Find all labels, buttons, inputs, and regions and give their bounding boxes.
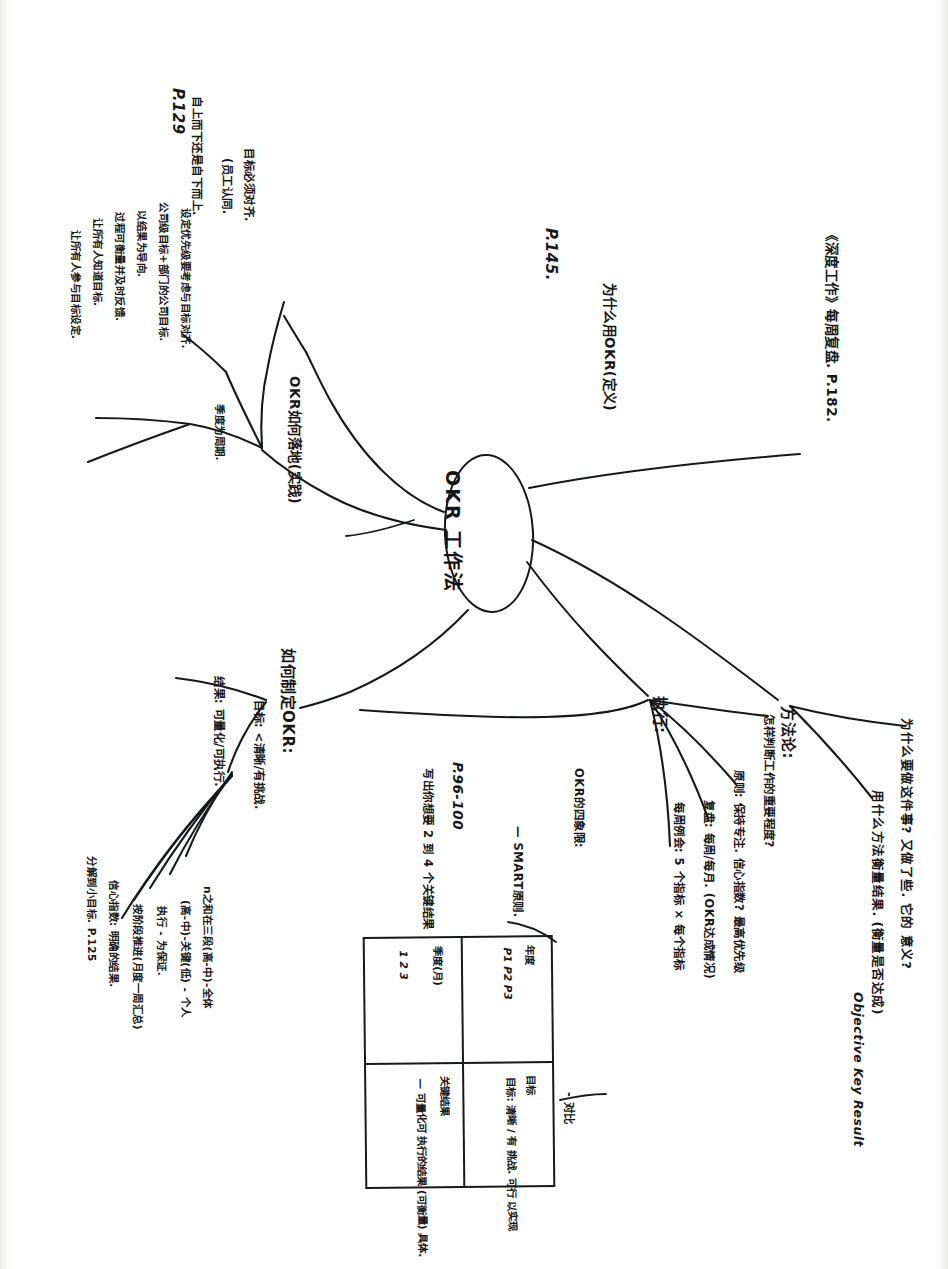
method-child-0: 为什么要做这件事? 又做了些. 它的 意义? bbox=[898, 718, 917, 969]
matrix-caption: - 对比 bbox=[562, 1092, 578, 1125]
execute-child-3: 每周例会: 5 个指标 × 每个指标 bbox=[672, 802, 688, 970]
branch-execute-label: 执行: bbox=[651, 696, 672, 734]
scanned-page: OKR 工作法 《深度工作》每周复盘. P.182. P.145. 为什么用OK… bbox=[0, 0, 948, 1269]
execute-child-5-smart: — SMART原则. bbox=[511, 826, 527, 918]
central-node-label: OKR 工作法 bbox=[441, 470, 468, 593]
matrix-row-header-key-result: 关键结果 bbox=[437, 1076, 453, 1116]
execute-child-1: 原则: 保持专注. 信心指数? 最高优先级 bbox=[732, 770, 748, 973]
branch-deep-work-review: 《深度工作》每周复盘. P.182. bbox=[823, 228, 843, 423]
practice-child-8: 让所有人参与目标设定. bbox=[69, 230, 84, 340]
practice-child-9: 季度为周期. bbox=[213, 404, 228, 461]
practice-child-5: 以结果为导向. bbox=[135, 210, 150, 278]
how-to-write-child-0: 写出你想要 2 到 4 个关键结果 bbox=[421, 768, 437, 930]
practice-child-6: 过程可衡量并及时反馈. bbox=[113, 212, 128, 322]
how-to-write-child-8: 分解到小目标. P.125 bbox=[85, 856, 100, 962]
practice-child-3: 设定优先级要考虑与目标对齐. bbox=[179, 208, 194, 349]
how-to-write-child-5: 执行 - 为保证. bbox=[155, 906, 170, 976]
practice-page-ref: P.129 bbox=[169, 88, 187, 135]
branch-method-label: 方法论: bbox=[779, 706, 800, 759]
matrix-cell-year-items: P1 P2 P3 bbox=[499, 947, 515, 999]
branch-how-to-write-label: 如何制定OKR: bbox=[279, 648, 300, 754]
practice-child-1: (员工认同. bbox=[220, 158, 236, 215]
page-ref-145: P.145. bbox=[542, 228, 560, 281]
practice-child-4: 公司级目标+部门的公司目标. bbox=[157, 202, 172, 342]
matrix-cell-quarter-items: 1 2 3 bbox=[395, 950, 411, 979]
execute-child-2: 复盘: 每周/每月. (OKR达成情况) bbox=[702, 800, 718, 979]
method-child-1: 用什么方法衡量结果. (衡量是否达成) bbox=[869, 790, 888, 1015]
how-to-write-page-ref: P.96-100 bbox=[450, 762, 466, 830]
execute-child-4-four-quadrant: OKR的四象限: bbox=[572, 768, 588, 848]
how-to-write-child-6: 按阶段推进(月度一周汇总) bbox=[131, 904, 146, 1030]
practice-child-7: 让所有人知道目标. bbox=[91, 218, 106, 307]
execute-child-0: 怎样判断工作的重要程度? bbox=[762, 714, 778, 848]
method-child-2-okr-expansion: Objective Key Result bbox=[851, 992, 866, 1147]
matrix-horizontal-divider bbox=[366, 1061, 552, 1065]
practice-child-2: 目标必须对齐. bbox=[242, 148, 258, 222]
branch-why-okr: 为什么用OKR(定义) bbox=[601, 283, 621, 411]
how-to-write-child-7: 信心指数: 明确的结果. bbox=[107, 880, 122, 988]
branch-practice-label: OKR如何落地(实践) bbox=[286, 376, 306, 504]
matrix-col-header-year: 年度 bbox=[522, 945, 537, 965]
practice-child-0: 自上而下还是自下而上. bbox=[190, 96, 206, 216]
how-to-write-child-3: n之和在三段(高-中)-全体 bbox=[201, 886, 216, 1009]
matrix-cell-goal-detail: 目标: 清晰 / 有 挑战. 可行 以实现 bbox=[502, 1077, 519, 1231]
how-to-write-child-4: (高-中)-关键(低) - 个人 bbox=[179, 900, 194, 1018]
how-to-write-child-1: 目标: <清晰/有挑战. bbox=[252, 700, 268, 810]
matrix-col-header-quarter: 季度(月) bbox=[430, 946, 446, 986]
matrix-row-header-goal: 目标 bbox=[523, 1075, 538, 1095]
matrix-cell-key-result-detail: — 可量化可 执行的结果 (可衡量) 具体. bbox=[412, 1078, 430, 1257]
okr-matrix-table: 年度 季度(月) P1 P2 P3 1 2 3 目标 目标: 清晰 / 有 挑战… bbox=[363, 935, 556, 1189]
how-to-write-child-2: 结果: 可量化/可执行. bbox=[212, 676, 228, 787]
